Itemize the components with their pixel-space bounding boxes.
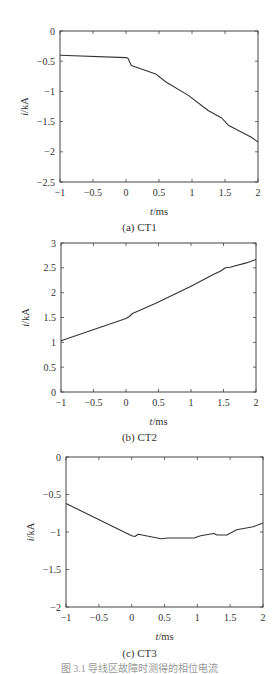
series-line-ct1 <box>60 55 258 142</box>
y-tick-label: 0 <box>56 452 61 463</box>
figure-canvas: −1−0.500.511.520−0.5−1−1.5−2−2.5t/msi/kA… <box>0 0 279 674</box>
caption-ct1: (a) CT1 <box>0 221 279 233</box>
chart-ct1: −1−0.500.511.520−0.5−1−1.5−2−2.5t/msi/kA <box>19 26 261 218</box>
x-tick-label: 0.5 <box>153 187 166 198</box>
y-tick-label: −2 <box>44 146 55 157</box>
x-tick-label: −1 <box>55 187 66 198</box>
y-tick-label: −1 <box>50 527 61 538</box>
x-tick-label: −0.5 <box>90 612 108 623</box>
caption-ct3: (c) CT3 <box>0 647 279 659</box>
x-tick-label: 2 <box>261 612 266 623</box>
y-axis-label: i/kA <box>25 522 36 541</box>
y-tick-label: 0.5 <box>44 362 57 373</box>
x-tick-label: −0.5 <box>84 397 102 408</box>
x-tick-label: 2 <box>256 187 261 198</box>
y-tick-label: 1 <box>51 337 56 348</box>
x-tick-label: 0 <box>129 612 134 623</box>
y-tick-label: −2 <box>50 602 61 613</box>
series-line-ct3 <box>66 504 263 539</box>
y-axis-label: i/kA <box>19 97 30 116</box>
y-tick-label: −1 <box>44 86 55 97</box>
y-tick-label: −0.5 <box>37 56 55 67</box>
y-tick-label: −1.5 <box>37 116 55 127</box>
x-tick-label: 0 <box>124 397 129 408</box>
x-tick-label: 1.5 <box>217 397 230 408</box>
x-axis-label: t/ms <box>150 206 168 217</box>
x-tick-label: 1 <box>195 612 200 623</box>
chart-ct3: −1−0.500.511.520−0.5−1−1.5−2t/msi/kA <box>25 452 266 643</box>
x-tick-label: −1 <box>61 612 72 623</box>
x-tick-label: −0.5 <box>84 187 102 198</box>
y-tick-label: −1.5 <box>43 564 61 575</box>
x-tick-label: 0 <box>124 187 129 198</box>
x-tick-label: 1.5 <box>219 187 232 198</box>
x-tick-label: 0.5 <box>152 397 165 408</box>
x-tick-label: −1 <box>56 397 67 408</box>
x-tick-label: 2 <box>254 397 259 408</box>
figure-caption: 图 3.1 导线区故障时测得的相位电流 <box>0 660 279 674</box>
x-tick-label: 0.5 <box>158 612 171 623</box>
y-tick-label: 0 <box>50 26 55 37</box>
y-tick-label: 2.5 <box>44 262 57 273</box>
plot-frame <box>60 31 258 182</box>
x-tick-label: 1 <box>189 397 194 408</box>
plot-frame <box>61 243 256 392</box>
x-tick-label: 1.5 <box>224 612 237 623</box>
y-tick-label: 0 <box>51 387 56 398</box>
series-line-ct2 <box>61 259 256 340</box>
y-axis-label: i/kA <box>20 308 31 327</box>
chart-ct2: −1−0.500.511.5232.521.510.50t/msi/kA <box>20 238 259 428</box>
y-tick-label: 3 <box>51 238 56 249</box>
y-tick-label: −2.5 <box>37 177 55 188</box>
x-axis-label: t/ms <box>149 416 167 427</box>
x-tick-label: 1 <box>190 187 195 198</box>
caption-ct2: (b) CT2 <box>0 431 279 443</box>
y-tick-label: −0.5 <box>43 489 61 500</box>
y-tick-label: 1.5 <box>44 312 57 323</box>
y-tick-label: 2 <box>51 287 56 298</box>
x-axis-label: t/ms <box>155 631 173 642</box>
